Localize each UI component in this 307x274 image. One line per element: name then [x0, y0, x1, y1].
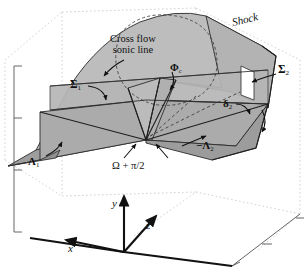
label-delta-2-subscript: 2: [229, 103, 232, 110]
label-omega-text: Ω + π/2: [112, 160, 144, 171]
label-axis-y: y: [112, 198, 117, 210]
label-lambda-2-symbol: −Λ: [196, 139, 210, 151]
axis-base-line: [124, 252, 232, 266]
label-lambda-1-symbol: Λ: [28, 155, 36, 167]
label-axis-x: x: [68, 243, 73, 255]
label-lambda-1: Λ1: [28, 156, 39, 168]
axis-base-line-left: [30, 238, 124, 252]
label-lambda-2: −Λ2: [196, 140, 214, 152]
label-lambda-2-subscript: 2: [210, 145, 213, 152]
label-cross-flow: Cross flow sonic line: [110, 33, 156, 56]
axis-z-arrow: [124, 216, 156, 252]
label-sigma-2: Σ2: [278, 63, 289, 77]
label-axis-y-text: y: [112, 197, 117, 209]
label-axis-x-text: x: [68, 242, 73, 254]
label-omega: Ω + π/2: [112, 160, 144, 171]
label-cross-flow-line1: Cross flow: [110, 33, 156, 44]
label-sigma-2-symbol: Σ: [278, 63, 286, 75]
label-sigma-2-subscript: 2: [286, 69, 290, 77]
label-phi-c-symbol: Φ: [170, 62, 179, 73]
label-axis-z: z: [146, 220, 150, 232]
label-sigma-1-subscript: 1: [78, 84, 82, 92]
label-lambda-1-subscript: 1: [36, 161, 39, 168]
label-phi-c: Φc: [170, 62, 182, 74]
label-sigma-1-symbol: Σ: [70, 78, 78, 90]
label-axis-z-text: z: [146, 219, 150, 231]
label-phi-c-subscript: c: [179, 67, 182, 74]
label-cross-flow-line2: sonic line: [113, 44, 154, 55]
figure-canvas: Shock Cross flow sonic line Σ1 Σ2 Φc δ2 …: [0, 0, 307, 274]
label-delta-2: δ2: [223, 98, 232, 110]
label-sigma-1: Σ1: [70, 78, 81, 92]
